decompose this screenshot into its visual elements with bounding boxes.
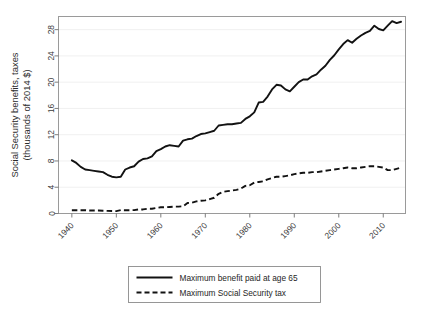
x-tick-label: 1970 (189, 220, 209, 240)
y-tick-labels: 0481216202428 (47, 25, 57, 216)
x-tick-label: 1990 (278, 220, 298, 240)
y-tick-label: 20 (47, 77, 57, 87)
y-axis-title-line1: Social Security benefits, taxes (9, 52, 20, 177)
legend-label-maximum-tax: Maximum Social Security tax (180, 288, 287, 298)
y-tick-label: 12 (47, 130, 57, 140)
x-tick-label: 1950 (100, 220, 120, 240)
series-line-maximum-tax (72, 166, 401, 211)
x-tick-label: 2010 (367, 220, 387, 240)
x-tick-labels: 19401950196019701980199020002010 (56, 220, 388, 240)
x-tick-label: 1960 (145, 220, 165, 240)
line-chart: 0481216202428 19401950196019701980199020… (0, 0, 425, 312)
y-tick-label: 24 (47, 51, 57, 61)
plot-frame (59, 17, 406, 214)
y-tick-label: 8 (47, 158, 57, 163)
gridlines (59, 30, 406, 188)
chart-figure: 0481216202428 19401950196019701980199020… (0, 0, 425, 312)
y-tick-label: 0 (47, 211, 57, 216)
x-tick-marks (72, 214, 383, 218)
y-tick-label: 28 (47, 25, 57, 35)
series-layer (72, 21, 401, 211)
chart-legend: Maximum benefit paid at age 65 Maximum S… (129, 267, 321, 303)
y-axis-title: Social Security benefits, taxes (thousan… (9, 52, 32, 177)
x-tick-label: 2000 (322, 220, 342, 240)
y-tick-label: 4 (47, 185, 57, 190)
x-tick-label: 1940 (56, 220, 76, 240)
legend-label-maximum-benefit: Maximum benefit paid at age 65 (180, 273, 298, 283)
series-line-maximum-benefit (72, 21, 401, 177)
y-tick-label: 16 (47, 103, 57, 113)
y-axis-title-line2: (thousands of 2014 $) (21, 69, 32, 160)
x-tick-label: 1980 (233, 220, 253, 240)
